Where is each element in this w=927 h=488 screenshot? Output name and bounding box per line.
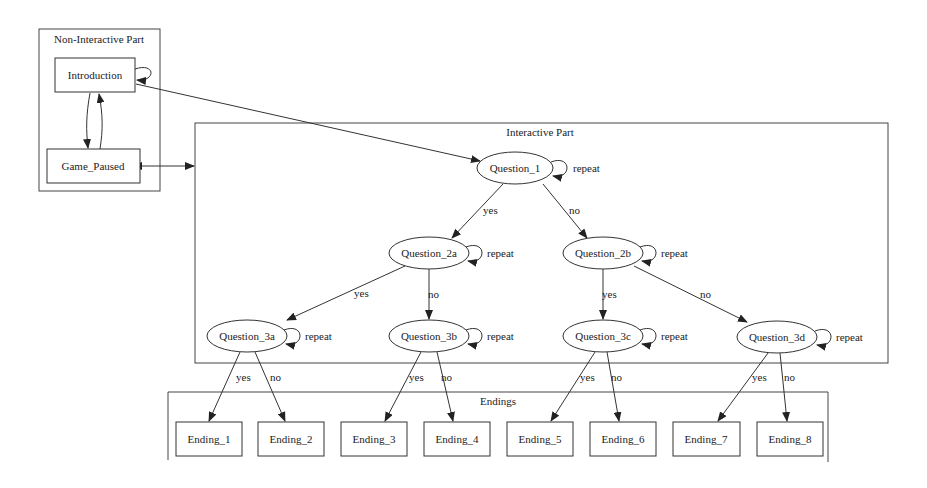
node-ending-5[interactable]: Ending_5: [507, 422, 573, 456]
node-ending-4[interactable]: Ending_4: [424, 422, 490, 456]
edge-label-repeat: repeat: [573, 162, 600, 174]
edge-q2a-to-q3a: [287, 266, 405, 320]
edge-q1-to-q2b: [543, 184, 587, 238]
svg-text:Ending_5: Ending_5: [519, 433, 562, 445]
edges-non-interactive: [87, 68, 480, 166]
node-ending-7[interactable]: Ending_7: [673, 422, 740, 456]
edge-label-repeat: repeat: [661, 247, 688, 259]
edge-label-yes: yes: [752, 371, 767, 383]
cluster-title-endings: Endings: [480, 395, 516, 407]
edge-label-repeat: repeat: [836, 331, 863, 343]
edges-to-endings: yes no yes no yes no yes no: [209, 352, 796, 421]
svg-text:Ending_4: Ending_4: [436, 433, 479, 445]
svg-text:Ending_7: Ending_7: [685, 433, 728, 445]
svg-text:Question_2a: Question_2a: [401, 247, 457, 259]
node-ending-6[interactable]: Ending_6: [590, 422, 656, 456]
edge-label-yes: yes: [409, 371, 424, 383]
node-question-3c[interactable]: Question_3c: [563, 320, 643, 352]
svg-text:Ending_8: Ending_8: [769, 433, 812, 445]
svg-text:Question_3a: Question_3a: [219, 330, 275, 342]
edge-label-no: no: [441, 371, 453, 383]
svg-text:Ending_2: Ending_2: [270, 433, 313, 445]
svg-text:Question_3c: Question_3c: [575, 330, 631, 342]
node-game-paused[interactable]: Game_Paused: [47, 149, 140, 183]
edge-q2b-to-q3d: [634, 266, 747, 322]
edge-game-paused-to-introduction: [99, 94, 102, 149]
svg-text:Question_3b: Question_3b: [401, 330, 458, 342]
edge-introduction-to-game-paused: [87, 93, 90, 148]
edge-label-yes: yes: [602, 288, 617, 300]
edge-label-yes: yes: [236, 371, 251, 383]
edge-q3b-to-ending-3: [385, 352, 421, 421]
svg-text:Introduction: Introduction: [68, 69, 123, 81]
edge-label-no: no: [428, 288, 440, 300]
edge-label-no: no: [611, 371, 623, 383]
node-introduction[interactable]: Introduction: [55, 58, 135, 92]
edge-q3a-to-ending-2: [255, 352, 285, 421]
cluster-title-non-interactive: Non-Interactive Part: [54, 33, 144, 45]
svg-text:Question_3d: Question_3d: [749, 331, 806, 343]
state-diagram: Non-Interactive Part Interactive Part En…: [0, 0, 927, 488]
edge-label-no: no: [784, 371, 796, 383]
edge-q3a-to-ending-1: [209, 352, 240, 421]
edge-label-repeat: repeat: [487, 247, 514, 259]
edge-label-repeat: repeat: [487, 330, 514, 342]
node-question-1[interactable]: Question_1: [477, 152, 553, 184]
edge-q3c-to-ending-6: [607, 352, 619, 421]
edge-label-no: no: [700, 288, 712, 300]
svg-text:Question_1: Question_1: [490, 162, 541, 174]
svg-text:Ending_1: Ending_1: [188, 433, 231, 445]
edge-label-yes: yes: [354, 287, 369, 299]
node-question-3a[interactable]: Question_3a: [207, 320, 287, 352]
edge-q3b-to-ending-4: [437, 352, 453, 421]
edge-label-yes: yes: [483, 204, 498, 216]
cluster-title-interactive: Interactive Part: [506, 126, 574, 138]
svg-text:Game_Paused: Game_Paused: [62, 160, 125, 172]
svg-text:Ending_6: Ending_6: [602, 433, 645, 445]
svg-text:Question_2b: Question_2b: [575, 247, 632, 259]
edge-label-repeat: repeat: [661, 330, 688, 342]
node-question-3b[interactable]: Question_3b: [389, 320, 469, 352]
node-ending-2[interactable]: Ending_2: [258, 422, 324, 456]
node-ending-3[interactable]: Ending_3: [341, 422, 407, 456]
node-question-2b[interactable]: Question_2b: [563, 237, 643, 269]
edge-label-no: no: [270, 371, 282, 383]
node-ending-8[interactable]: Ending_8: [757, 422, 823, 456]
edge-label-no: no: [569, 204, 581, 216]
edge-label-yes: yes: [580, 371, 595, 383]
node-question-3d[interactable]: Question_3d: [737, 321, 817, 353]
node-question-2a[interactable]: Question_2a: [389, 237, 469, 269]
edge-label-repeat: repeat: [305, 330, 332, 342]
svg-text:Ending_3: Ending_3: [353, 433, 396, 445]
edge-q3c-to-ending-5: [551, 352, 595, 421]
edge-introduction-self: [135, 68, 151, 81]
node-ending-1[interactable]: Ending_1: [176, 422, 242, 456]
